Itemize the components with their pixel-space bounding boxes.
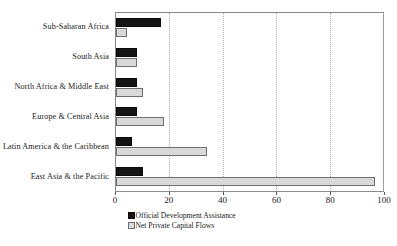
- axis-tick-label: 100: [377, 196, 391, 205]
- category-label: Latin America & the Caribbean: [0, 132, 113, 162]
- bar: [116, 78, 137, 87]
- axis-tick-label: 80: [326, 196, 335, 205]
- bar: [116, 48, 137, 57]
- category-label: South Asia: [0, 42, 113, 72]
- black-square-swatch-icon: [128, 212, 135, 219]
- bar: [116, 117, 164, 126]
- legend-item-net-private-capital-flows: Net Private Capital Flows: [128, 222, 270, 230]
- bar-group: [116, 72, 383, 102]
- bar-chart: Sub-Saharan Africa South Asia North Afri…: [0, 0, 397, 246]
- legend-label: Net Private Capital Flows: [136, 222, 215, 230]
- axis-tick-label: 20: [164, 196, 173, 205]
- bar: [116, 88, 143, 97]
- axis-tick-label: 60: [272, 196, 281, 205]
- chart-legend: Official Development Assistance Net Priv…: [0, 212, 397, 229]
- bar-group: [116, 13, 383, 43]
- bar-groups: [116, 13, 383, 191]
- bar: [116, 18, 161, 27]
- category-axis-labels: Sub-Saharan Africa South Asia North Afri…: [0, 12, 113, 192]
- category-label: Sub-Saharan Africa: [0, 12, 113, 42]
- bar: [116, 167, 143, 176]
- bar-group: [116, 43, 383, 73]
- bar: [116, 28, 127, 37]
- category-label: North Africa & Middle East: [0, 72, 113, 102]
- bar: [116, 147, 207, 156]
- bar: [116, 177, 375, 186]
- legend-label: Official Development Assistance: [136, 212, 236, 220]
- gridline: [383, 13, 385, 191]
- bar: [116, 137, 132, 146]
- category-label: East Asia & the Pacific: [0, 162, 113, 192]
- bar-group: [116, 161, 383, 191]
- category-label: Europe & Central Asia: [0, 102, 113, 132]
- value-axis: 020406080100: [115, 192, 384, 210]
- axis-tick-label: 40: [218, 196, 227, 205]
- light-gray-square-swatch-icon: [128, 222, 135, 229]
- bar-group: [116, 132, 383, 162]
- bar: [116, 107, 137, 116]
- bar-group: [116, 102, 383, 132]
- axis-tick-label: 0: [113, 196, 118, 205]
- bar: [116, 58, 137, 67]
- plot-area: [115, 12, 384, 192]
- legend-item-official-development-assistance: Official Development Assistance: [128, 212, 270, 220]
